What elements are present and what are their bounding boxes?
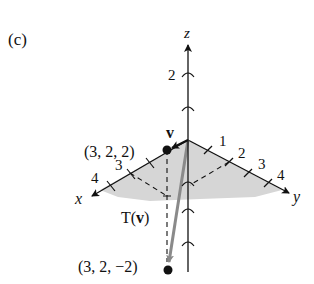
y-tick-3: 3 bbox=[258, 156, 266, 172]
tv-prefix: T( bbox=[121, 209, 136, 227]
z-tick-2: 2 bbox=[168, 67, 176, 83]
x-axis-label: x bbox=[74, 190, 82, 207]
x-tick-4: 4 bbox=[91, 170, 99, 186]
y-tick-1: 1 bbox=[219, 133, 227, 149]
z-axis-label: z bbox=[183, 25, 190, 41]
diagram: (c) 3 4 x 1 2 3 4 y 2 z bbox=[0, 0, 314, 284]
y-tick-4: 4 bbox=[277, 167, 285, 183]
panel-label: (c) bbox=[8, 30, 27, 49]
tv-suffix: ) bbox=[144, 209, 149, 227]
point-v bbox=[163, 146, 172, 155]
point-v-label: (3, 2, 2) bbox=[84, 143, 135, 161]
tv-vector-label: T(v) bbox=[121, 209, 149, 227]
point-tv-label: (3, 2, −2) bbox=[78, 258, 138, 276]
y-axis-label: y bbox=[291, 188, 301, 206]
point-tv bbox=[164, 266, 173, 275]
v-vector-label: v bbox=[166, 124, 174, 141]
tv-v: v bbox=[136, 209, 144, 226]
y-tick-2: 2 bbox=[238, 145, 246, 161]
